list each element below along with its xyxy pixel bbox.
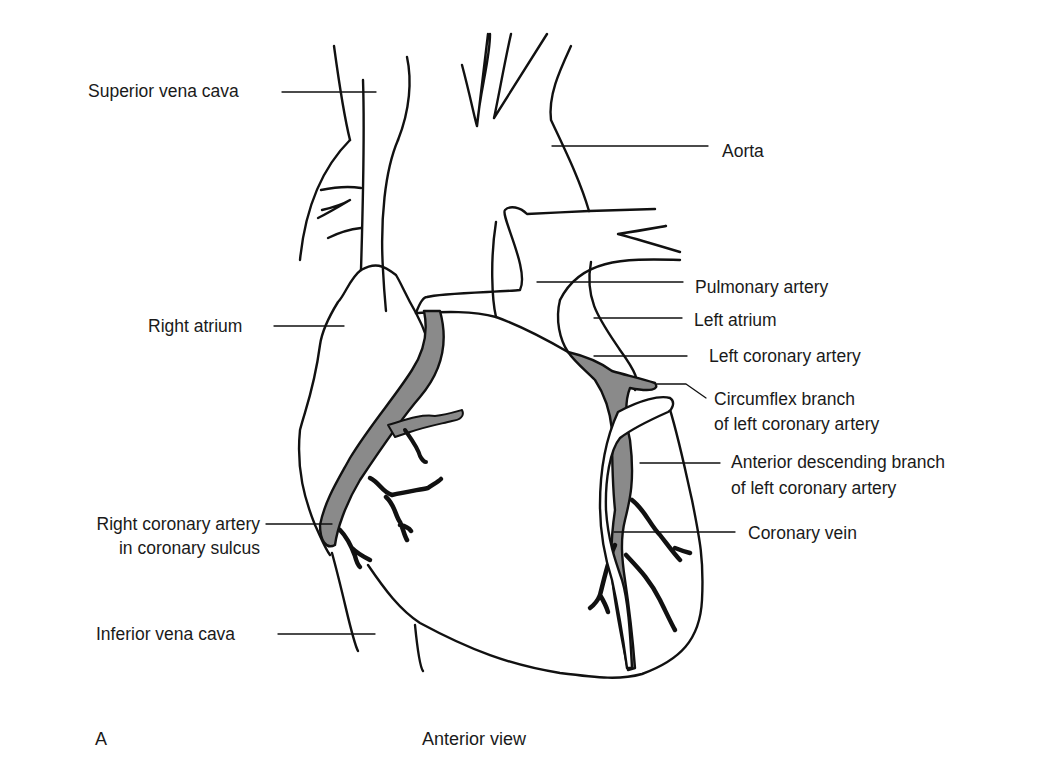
label-right-coronary-artery-line1: Right coronary artery: [22, 513, 260, 535]
label-anterior-descending-line2: of left coronary artery: [731, 477, 896, 499]
label-left-atrium: Left atrium: [694, 309, 777, 331]
label-superior-vena-cava: Superior vena cava: [88, 80, 239, 102]
inferior-vena-cava-shape: [332, 553, 423, 671]
leader-lines: [266, 92, 735, 634]
right-coronary-artery-shape: [320, 311, 463, 567]
label-inferior-vena-cava: Inferior vena cava: [96, 623, 235, 645]
label-aorta: Aorta: [722, 140, 764, 162]
panel-letter: A: [95, 728, 107, 750]
aorta-shape: [300, 34, 655, 311]
pulmonary-artery-shape: [416, 207, 680, 317]
label-circumflex-line1: Circumflex branch: [714, 388, 855, 410]
label-left-coronary-artery: Left coronary artery: [709, 345, 861, 367]
heart-anterior-diagram: Superior vena cava Right atrium Right co…: [0, 0, 1050, 781]
label-right-coronary-artery-line2: in coronary sulcus: [22, 537, 260, 559]
diagram-caption: Anterior view: [422, 728, 526, 750]
label-pulmonary-artery: Pulmonary artery: [695, 276, 828, 298]
right-atrium-shape: [299, 265, 432, 555]
label-coronary-vein: Coronary vein: [748, 522, 857, 544]
heart-illustration: [0, 0, 1050, 781]
label-circumflex-line2: of left coronary artery: [714, 413, 879, 435]
label-right-atrium: Right atrium: [148, 315, 242, 337]
label-anterior-descending-line1: Anterior descending branch: [731, 451, 945, 473]
